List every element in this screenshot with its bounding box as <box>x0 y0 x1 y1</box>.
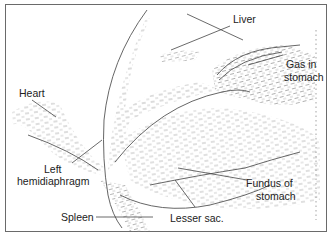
label-fundus-line2: stomach <box>256 190 296 202</box>
ultrasound-drawing <box>0 0 331 238</box>
label-lesser-sac: Lesser sac. <box>170 212 224 224</box>
label-gas-in-stomach-line2: stomach <box>284 71 324 83</box>
label-heart: Heart <box>19 87 45 99</box>
label-liver: Liver <box>233 13 256 25</box>
label-left-hemidiaphragm-line2: hemidiaphragm <box>17 175 89 187</box>
label-spleen: Spleen <box>61 211 94 223</box>
liver-leader <box>171 26 230 50</box>
label-fundus-line1: Fundus of <box>246 177 293 189</box>
label-left-hemidiaphragm-line1: Left <box>44 163 62 175</box>
label-gas-in-stomach-line1: Gas in <box>286 58 316 70</box>
